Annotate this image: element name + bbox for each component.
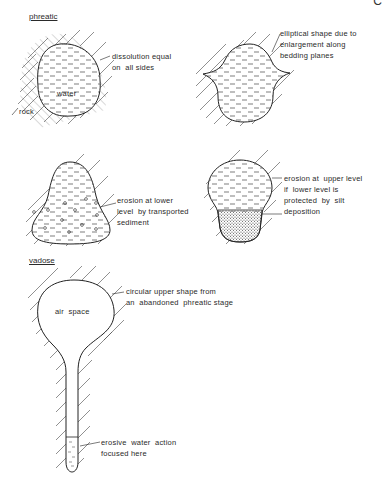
label-water: water (57, 88, 76, 99)
annotation-lower-erosion: erosion at lowerlevel by transportedsedi… (117, 195, 189, 228)
annotation-erosive-water: erosive water actionfocused here (101, 437, 176, 459)
annotation-dissolution: dissolution equalon all sides (112, 51, 171, 73)
diagram-phreatic-lower-erosion (26, 154, 120, 246)
cave-passage-diagram (0, 0, 382, 495)
section-title-vadose: vadose (29, 256, 55, 265)
annotation-upper-erosion: erosion at upper levelif lower level isp… (284, 173, 362, 217)
page-corner-mark: C (373, 0, 382, 8)
section-title-phreatic: phreatic (29, 12, 57, 21)
annotation-elliptical: elliptical shape due toenlargement along… (280, 28, 357, 61)
label-rock: rock (19, 106, 34, 117)
silt-deposit (218, 210, 262, 242)
diagram-phreatic-upper-erosion (204, 150, 282, 244)
annotation-circular-upper: circular upper shape froman abandoned ph… (126, 286, 233, 308)
label-air-space: air space (55, 306, 90, 317)
